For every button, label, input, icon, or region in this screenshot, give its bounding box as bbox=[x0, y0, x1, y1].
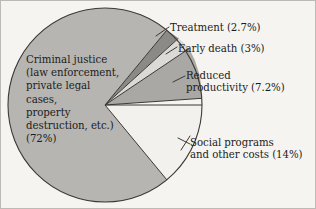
pie-label-reduced-productivity: Reduced productivity (7.2%) bbox=[186, 70, 285, 95]
pie-label-criminal-justice-line2: (law enforcement, bbox=[26, 66, 134, 79]
pie-label-social-programs-line1: Social programs bbox=[190, 137, 303, 149]
pie-label-criminal-justice-line5: property bbox=[26, 106, 134, 119]
pie-label-criminal-justice-line6: destruction, etc.) bbox=[26, 119, 134, 132]
pie-label-criminal-justice: Criminal justice (law enforcement, priva… bbox=[26, 53, 134, 145]
pie-label-social-programs-line2: and other costs (14%) bbox=[190, 149, 303, 161]
pie-label-early-death: Early death (3%) bbox=[178, 43, 264, 55]
pie-label-treatment: Treatment (2.7%) bbox=[170, 22, 260, 34]
pie-chart-figure: Treatment (2.7%) Early death (3%) Reduce… bbox=[0, 0, 316, 209]
pie-label-reduced-productivity-line2: productivity (7.2%) bbox=[186, 82, 285, 94]
pie-label-criminal-justice-line1: Criminal justice bbox=[26, 53, 134, 66]
pie-label-treatment-text: Treatment (2.7%) bbox=[170, 22, 260, 33]
pie-label-criminal-justice-line7: (72%) bbox=[26, 132, 134, 145]
pie-label-reduced-productivity-line1: Reduced bbox=[186, 70, 285, 82]
pie-label-criminal-justice-line4: cases, bbox=[26, 93, 134, 106]
pie-label-criminal-justice-line3: private legal bbox=[26, 79, 134, 92]
pie-label-social-programs: Social programs and other costs (14%) bbox=[190, 137, 303, 162]
pie-label-early-death-text: Early death (3%) bbox=[178, 43, 264, 54]
